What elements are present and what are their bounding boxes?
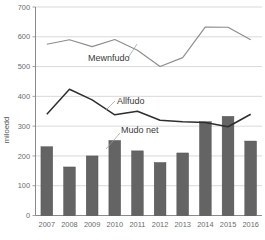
bar [222, 116, 234, 215]
bar [41, 147, 53, 216]
y-tick-label: 600 [18, 32, 30, 41]
y-tick-label: 0 [26, 211, 30, 220]
bar [64, 167, 76, 216]
x-tick-labels: 2007200820092010201120122013201420152016 [39, 220, 259, 229]
x-tick-label: 2010 [107, 220, 123, 229]
migration-chart: 0100200300400500600700 20072008200920102… [0, 0, 265, 240]
chart-canvas: 0100200300400500600700 20072008200920102… [0, 0, 265, 240]
bar [154, 162, 166, 215]
x-tick-label: 2015 [220, 220, 236, 229]
annotation-label-mudo-net: Mudo net [121, 125, 159, 135]
y-tick-label: 500 [18, 62, 30, 71]
y-tick-labels: 0100200300400500600700 [18, 3, 30, 221]
bar [245, 141, 257, 215]
x-tick-label: 2012 [152, 220, 168, 229]
x-tick-label: 2007 [39, 220, 55, 229]
line-series-mewnfudo [47, 27, 251, 67]
y-tick-label: 200 [18, 152, 30, 161]
y-tick-label: 400 [18, 92, 30, 101]
y-tick-label: 100 [18, 181, 30, 190]
x-tick-label: 2008 [61, 220, 77, 229]
y-tick-label: 700 [18, 3, 30, 12]
bar [86, 156, 98, 216]
bar [109, 140, 121, 215]
x-tick-label: 2009 [84, 220, 100, 229]
bar [177, 153, 189, 216]
x-tick-label: 2016 [242, 220, 258, 229]
annotation-label-allfudo: Allfudo [117, 96, 145, 106]
x-tick-label: 2014 [197, 220, 213, 229]
bar [132, 151, 144, 216]
annotation-allfudo: Allfudo [106, 96, 145, 110]
leader-line-allfudo [106, 101, 115, 110]
line-series-allfudo [47, 89, 251, 127]
annotation-label-mewnfudo: Mewnfudo [88, 53, 130, 63]
y-axis-title: miloedd [2, 117, 11, 144]
x-tick-label: 2011 [129, 220, 145, 229]
x-tick-label: 2013 [174, 220, 190, 229]
bar [199, 122, 211, 216]
y-tick-label: 300 [18, 122, 30, 131]
y-axis [33, 7, 36, 216]
